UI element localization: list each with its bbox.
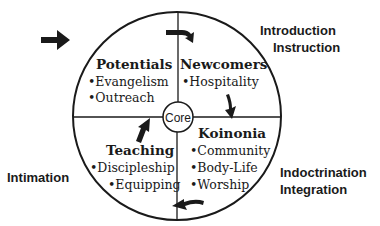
label-integration: Integration — [280, 182, 347, 197]
quadrant-title-newcomers: Newcomers — [180, 56, 268, 72]
quadrant-item: •Hospitality — [182, 74, 260, 89]
curved-arrow-right-icon — [166, 30, 194, 43]
arrow-up-icon — [136, 118, 150, 143]
label-introduction: Introduction — [260, 23, 336, 38]
label-indoctrination: Indoctrination — [280, 165, 367, 180]
quadrant-item: •Equipping — [108, 177, 181, 192]
core-label: Core — [165, 111, 191, 125]
curved-arrow-down-icon — [225, 94, 236, 119]
quadrant-title-koinonia: Koinonia — [198, 125, 266, 141]
quadrant-title-potentials: Potentials — [96, 56, 173, 72]
quadrant-item: •Body-Life — [190, 160, 258, 175]
quadrant-title-teaching: Teaching — [106, 142, 175, 158]
label-instruction: Instruction — [273, 40, 340, 55]
quadrant-item: •Community — [190, 143, 271, 158]
quadrant-item: •Outreach — [88, 90, 155, 105]
entry-arrow-icon — [41, 30, 70, 50]
quadrant-item: •Worship — [190, 177, 249, 192]
label-intimation: Intimation — [7, 170, 69, 185]
quadrant-item: •Discipleship — [90, 160, 175, 175]
quadrant-item: •Evangelism — [88, 74, 169, 89]
cycle-diagram: Core Potentials •Evangelism •Outreach Ne… — [0, 0, 380, 226]
